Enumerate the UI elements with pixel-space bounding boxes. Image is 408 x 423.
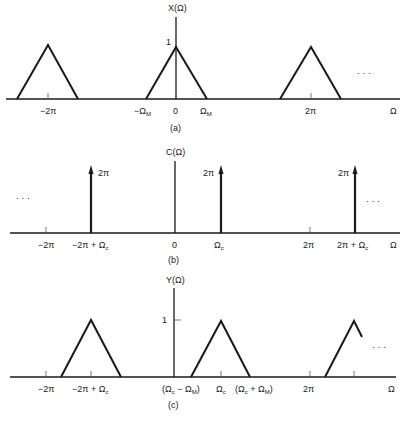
panel-b-tick-label-2pi-plus-omegac: 2π + Ωc	[337, 240, 368, 251]
panel-c-tick-label-neg2pi: −2π	[38, 384, 54, 394]
panel-b-ellipsis-right: · · ·	[366, 196, 380, 206]
panel-a: X(Ω) 1 · · · −2π −ΩM 0 ΩM 2π Ω (a)	[6, 3, 400, 133]
panel-c-triangle-omegac	[191, 321, 250, 377]
panel-b-impulse-label-1: 2π	[98, 168, 109, 178]
panel-a-tick-label-2pi: 2π	[305, 106, 316, 116]
panel-b-tick-label-2pi: 2π	[303, 240, 314, 250]
panel-b-x-label: Ω	[390, 240, 397, 250]
panel-c-y-label: Y(Ω)	[166, 275, 185, 285]
panel-b-tick-label-neg2pi: −2π	[38, 240, 54, 250]
panel-b-impulse-label-2: 2π	[203, 168, 214, 178]
panel-a-peak-label: 1	[166, 37, 171, 47]
panel-b-impulse-neg2pi-plus-omegac	[89, 165, 94, 233]
arrowhead-icon	[219, 165, 224, 174]
panel-a-y-label: X(Ω)	[168, 3, 187, 13]
panel-a-tick-label-neg2pi: −2π	[40, 106, 56, 116]
arrowhead-icon	[353, 165, 358, 174]
panel-b-caption: (b)	[168, 255, 179, 265]
panel-c-tick-label-omegac-minus-omegaM: (Ωc − ΩM)	[162, 384, 200, 395]
panel-c-triangle-neg2pi-plus-omegac	[61, 320, 121, 377]
panel-c-tick-label-2pi: 2π	[303, 384, 314, 394]
panel-a-tick-label-omegaM: ΩM	[200, 106, 212, 117]
panel-c-tick-label-omegac-plus-omegaM: (Ωc + ΩM)	[235, 384, 273, 395]
panel-a-tick-label-zero: 0	[173, 106, 178, 116]
panel-c-peak-label: 1	[162, 315, 167, 325]
panel-b: C(Ω) 2π 2π 2π · · · · · · −2π −2π + Ωc 0…	[10, 147, 400, 265]
panel-a-tick-label-neg-omegaM: −ΩM	[134, 106, 151, 117]
panel-c-x-label: Ω	[388, 384, 395, 394]
panel-c-triangle-2pi-plus-omegac-partial	[325, 321, 362, 377]
arrowhead-icon	[89, 165, 94, 174]
modulation-spectra-figure: X(Ω) 1 · · · −2π −ΩM 0 ΩM 2π Ω (a) C(Ω)	[0, 0, 408, 423]
panel-b-tick-label-zero: 0	[172, 240, 177, 250]
panel-a-caption: (a)	[170, 123, 181, 133]
panel-c: Y(Ω) 1 · · · −2π −2π + Ωc (Ωc − ΩM) Ωc (…	[10, 275, 396, 410]
panel-a-triangle-neg2pi	[17, 45, 78, 99]
panel-b-ellipsis-left: · · ·	[16, 193, 30, 203]
panel-b-y-label: C(Ω)	[166, 147, 185, 157]
panel-b-impulse-label-3: 2π	[338, 168, 349, 178]
panel-b-impulse-omegac	[219, 165, 224, 233]
panel-c-caption: (c)	[168, 400, 179, 410]
panel-b-tick-label-omegac: Ωc	[214, 240, 224, 251]
panel-a-x-label: Ω	[390, 106, 397, 116]
panel-a-ellipsis: · · ·	[357, 68, 371, 78]
panel-c-tick-label-omegac: Ωc	[216, 384, 226, 395]
panel-c-ellipsis: · · ·	[372, 342, 386, 352]
panel-b-impulse-2pi-plus-omegac	[353, 165, 358, 233]
panel-a-triangle-2pi	[280, 47, 341, 99]
panel-b-tick-label-neg2pi-plus-omegac: −2π + Ωc	[72, 240, 108, 251]
panel-c-tick-label-neg2pi-plus-omegac: −2π + Ωc	[72, 384, 108, 395]
